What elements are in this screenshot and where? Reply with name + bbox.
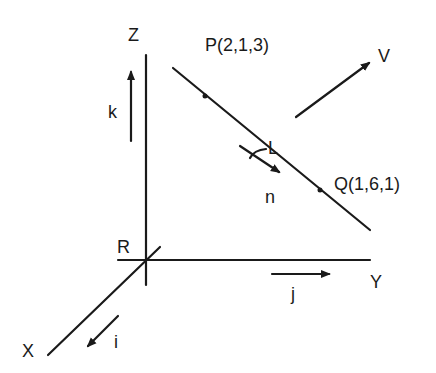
x-axis-label: X bbox=[22, 342, 34, 360]
point-q-dot bbox=[318, 188, 323, 193]
y-axis-label: Y bbox=[370, 273, 382, 291]
i-label: i bbox=[114, 333, 118, 351]
x-axis bbox=[48, 247, 160, 355]
point-q-label: Q(1,6,1) bbox=[334, 175, 400, 193]
origin-r-label: R bbox=[117, 238, 130, 256]
n-label: n bbox=[265, 188, 275, 206]
j-label: j bbox=[291, 285, 295, 303]
point-p-dot bbox=[203, 94, 208, 99]
k-label: k bbox=[108, 103, 117, 121]
vector-diagram: Z k P(2,1,3) V L Q(1,6,1) n R Y j i X bbox=[0, 0, 436, 373]
point-p-label: P(2,1,3) bbox=[205, 36, 269, 54]
line-l-label: L bbox=[268, 139, 278, 157]
vector-v-arrow bbox=[296, 63, 369, 117]
vector-v-label: V bbox=[378, 47, 390, 65]
z-axis-label: Z bbox=[128, 26, 139, 44]
